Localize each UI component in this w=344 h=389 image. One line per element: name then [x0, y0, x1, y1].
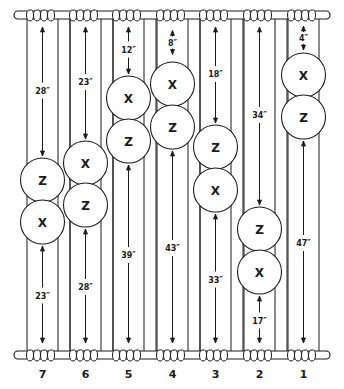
strip-column-6: 23″XZ28″6 [64, 19, 114, 381]
bottom-gap-dimension: 33″ [208, 214, 223, 343]
svg-text:X: X [299, 69, 309, 83]
top-gap-label: 23″ [78, 78, 93, 87]
top-rod [14, 10, 330, 21]
strip-column-2: 34″ZX17″2 [238, 19, 288, 381]
column-number: 6 [82, 368, 90, 381]
top-gap-dimension: 8″ [168, 31, 178, 55]
bottom-gap-dimension: 28″ [78, 229, 93, 343]
top-gap-dimension: 23″ [78, 27, 93, 139]
column-number: 1 [300, 368, 308, 381]
bottom-gap-dimension: 39″ [121, 165, 136, 343]
top-gap-label: 18″ [208, 70, 223, 79]
svg-text:X: X [168, 78, 178, 92]
column-number: 5 [125, 368, 133, 381]
strip-column-3: 18″ZX33″3 [194, 19, 244, 381]
strip-column-7: 28″ZX23″7 [21, 19, 71, 381]
marker-x: X [282, 53, 326, 97]
svg-text:Z: Z [255, 223, 264, 237]
strip-column-1: 4″XZ47″1 [282, 19, 326, 381]
svg-text:Z: Z [211, 141, 220, 155]
marker-z: Z [282, 95, 326, 139]
column-number: 7 [39, 368, 47, 381]
top-gap-label: 4″ [299, 34, 309, 43]
bottom-gap-dimension: 47″ [296, 141, 311, 343]
strip-column-5: 12″XZ39″5 [107, 19, 157, 381]
top-gap-label: 28″ [35, 87, 50, 96]
svg-text:Z: Z [38, 174, 47, 188]
top-gap-label: 12″ [121, 46, 136, 55]
marker-z: Z [194, 125, 238, 169]
bottom-gap-label: 33″ [208, 276, 223, 285]
marker-x: X [107, 76, 151, 120]
top-gap-dimension: 12″ [121, 27, 136, 74]
strip-column-4: 8″XZ43″4 [151, 19, 201, 381]
svg-text:X: X [255, 266, 265, 280]
marker-x: X [21, 200, 65, 244]
bottom-gap-label: 43″ [165, 244, 180, 253]
top-gap-dimension: 4″ [299, 26, 309, 50]
bottom-gap-label: 47″ [296, 239, 311, 248]
top-gap-label: 34″ [252, 111, 267, 120]
svg-text:Z: Z [124, 135, 133, 149]
curtain-placement-diagram: 28″ZX23″723″XZ28″612″XZ39″58″XZ43″418″ZX… [0, 0, 344, 389]
marker-z: Z [64, 183, 108, 227]
svg-text:Z: Z [299, 111, 308, 125]
svg-text:X: X [81, 157, 91, 171]
bottom-gap-label: 28″ [78, 283, 93, 292]
svg-text:X: X [124, 92, 134, 106]
marker-x: X [238, 250, 282, 294]
bottom-gap-label: 17″ [252, 317, 267, 326]
marker-z: Z [238, 207, 282, 251]
marker-z: Z [21, 158, 65, 202]
bottom-gap-dimension: 43″ [165, 151, 180, 343]
bottom-rod [14, 350, 330, 361]
marker-z: Z [151, 105, 195, 149]
marker-x: X [64, 141, 108, 185]
column-number: 3 [212, 368, 220, 381]
column-number: 2 [256, 368, 264, 381]
svg-text:X: X [211, 184, 221, 198]
marker-x: X [151, 62, 195, 106]
svg-text:Z: Z [168, 121, 177, 135]
top-gap-dimension: 18″ [208, 27, 223, 123]
strips: 28″ZX23″723″XZ28″612″XZ39″58″XZ43″418″ZX… [21, 19, 326, 381]
marker-z: Z [107, 119, 151, 163]
top-gap-dimension: 28″ [35, 27, 50, 156]
marker-x: X [194, 168, 238, 212]
bottom-gap-dimension: 17″ [252, 296, 267, 343]
top-gap-label: 8″ [168, 39, 178, 48]
svg-text:Z: Z [81, 199, 90, 213]
column-number: 4 [169, 368, 177, 381]
bottom-gap-label: 23″ [35, 292, 50, 301]
svg-text:X: X [38, 216, 48, 230]
top-gap-dimension: 34″ [252, 27, 267, 205]
bottom-gap-label: 39″ [121, 251, 136, 260]
bottom-gap-dimension: 23″ [35, 246, 50, 343]
